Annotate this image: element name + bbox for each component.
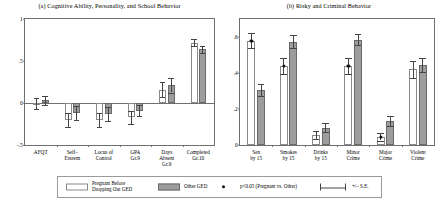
error-bar-cap — [419, 72, 426, 73]
error-bar — [194, 39, 195, 47]
panel-b-plot-area: 0.2.4.6Sex by 15Smokes by 15Drinks by 15… — [239, 18, 435, 146]
x-axis-category-label: Days Absent Gr.9 — [159, 149, 174, 167]
x-axis-category-label: Minor Crime — [347, 149, 360, 161]
legend-swatch-standard-error — [320, 184, 346, 191]
error-bar — [413, 61, 414, 78]
legend-label-significance: p<0.05 (Pregnant vs. Other) — [240, 184, 297, 190]
x-axis-tick-mark — [272, 145, 273, 147]
error-bar-cap — [191, 39, 197, 40]
x-axis-tick-mark — [120, 145, 121, 147]
x-axis-category-label: Sex by 15 — [250, 149, 262, 161]
error-bar-cap — [191, 46, 197, 47]
x-axis-tick-mark — [88, 145, 89, 147]
legend-label-other: Other GED — [184, 184, 207, 190]
figure-root: (a) Cognitive Ability, Personality, and … — [0, 0, 439, 204]
error-bar-cap — [200, 53, 206, 54]
panel-a-plot-area: -.50.51AFQTSelf– EsteemLocus of ControlG… — [24, 18, 215, 146]
bar-group — [25, 19, 214, 145]
legend-swatch-pregnant — [66, 184, 88, 191]
x-axis-tick-mark — [337, 145, 338, 147]
x-axis-tick-mark — [402, 145, 403, 147]
x-axis-category-label: Major Crime — [379, 149, 392, 161]
error-bar-cap — [410, 61, 417, 62]
x-axis-tick-mark — [183, 145, 184, 147]
error-bar — [422, 58, 423, 72]
significance-dot-icon — [222, 185, 225, 188]
x-axis-category-label: GPA Gr.9 — [130, 149, 140, 161]
panel-a-title: (a) Cognitive Ability, Personality, and … — [0, 2, 219, 9]
bar — [419, 65, 427, 145]
x-axis-category-label: AFQT — [34, 149, 48, 155]
x-axis-tick-mark — [305, 145, 306, 147]
bar — [199, 49, 206, 103]
legend-label-pregnant: Pregnant Before Dropping Out GED — [92, 181, 132, 193]
x-axis-tick-mark — [57, 145, 58, 147]
error-bar-cap — [200, 46, 206, 47]
x-axis-category-label: Completed Gr.10 — [187, 149, 210, 161]
x-axis-category-label: Smokes by 15 — [280, 149, 297, 161]
x-axis-category-label: Violent Crime — [410, 149, 426, 161]
panel-risky-behavior: (b) Risky and Criminal Behavior 0.2.4.6S… — [219, 0, 439, 172]
error-bar-cap — [419, 58, 426, 59]
chart-legend: Pregnant Before Dropping Out GED Other G… — [57, 176, 382, 198]
bar — [191, 43, 198, 103]
x-axis-category-label: Drinks by 15 — [314, 149, 328, 161]
x-axis-category-label: Locus of Control — [94, 149, 113, 161]
error-bar — [202, 46, 203, 53]
panel-b-title: (b) Risky and Criminal Behavior — [219, 2, 439, 9]
bar-group — [240, 19, 434, 145]
x-axis-tick-mark — [369, 145, 370, 147]
x-axis-category-label: Self– Esteem — [64, 149, 80, 161]
error-bar-cap — [410, 78, 417, 79]
x-axis-tick-mark — [151, 145, 152, 147]
bar — [409, 69, 417, 145]
legend-significance-dot-wrap — [222, 177, 228, 197]
panel-cognitive-ability: (a) Cognitive Ability, Personality, and … — [0, 0, 219, 172]
legend-swatch-other — [158, 184, 180, 191]
legend-label-standard-error: +/– S.E. — [352, 184, 369, 190]
